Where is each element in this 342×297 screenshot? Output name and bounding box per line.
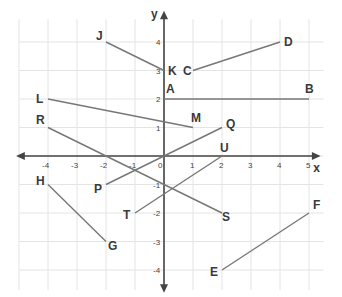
x-tick-label: -3 <box>71 161 79 170</box>
x-axis-arrow-left-icon <box>16 152 25 160</box>
point-label-e: E <box>210 265 218 279</box>
point-label-u: U <box>220 141 229 155</box>
point-label-p: P <box>94 182 102 196</box>
x-axis-arrow-right-icon <box>312 152 321 160</box>
axes: xy <box>16 7 321 293</box>
y-tick-label: 2 <box>156 95 161 104</box>
point-label-j: J <box>96 29 103 43</box>
point-label-m: M <box>191 111 201 125</box>
point-label-g: G <box>108 239 117 253</box>
x-tick-label: -4 <box>42 161 50 170</box>
segment-lm <box>48 99 193 128</box>
x-tick-label: 2 <box>219 161 224 170</box>
grid-lines <box>19 19 324 290</box>
y-axis-label: y <box>151 7 158 21</box>
point-label-h: H <box>36 174 45 188</box>
y-tick-label: -3 <box>153 238 161 247</box>
x-axis-label: x <box>313 161 320 175</box>
y-tick-label: -4 <box>153 266 161 275</box>
point-label-l: L <box>36 92 43 106</box>
y-tick-label: 4 <box>156 38 161 47</box>
point-label-f: F <box>313 198 320 212</box>
x-tick-label: 5 <box>306 161 311 170</box>
y-tick-label: 1 <box>156 124 161 133</box>
segment-cd <box>193 42 280 71</box>
x-tick-label: -2 <box>100 161 108 170</box>
y-axis-arrow-down-icon <box>160 284 168 293</box>
point-label-q: Q <box>226 117 235 131</box>
point-label-c: C <box>183 64 192 78</box>
y-axis-arrow-up-icon <box>160 11 168 20</box>
point-label-d: D <box>284 35 293 49</box>
point-label-s: S <box>222 210 230 224</box>
coordinate-plane: xy -4-3-2-10123454321-1-2-3-4 JKCDABLMRS… <box>0 0 342 297</box>
point-label-b: B <box>305 82 314 96</box>
x-tick-label: 1 <box>190 161 195 170</box>
point-label-t: T <box>123 208 131 222</box>
x-tick-label: 3 <box>248 161 253 170</box>
point-label-a: A <box>166 82 175 96</box>
x-tick-label: 0 <box>158 161 163 170</box>
x-tick-label: 4 <box>277 161 282 170</box>
y-tick-label: -2 <box>153 209 161 218</box>
point-label-r: R <box>36 113 45 127</box>
point-label-k: K <box>168 64 177 78</box>
